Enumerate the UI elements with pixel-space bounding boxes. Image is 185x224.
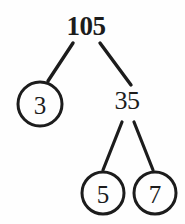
edge-root-to-left (48, 43, 73, 81)
edge-root-to-right (100, 43, 131, 85)
node-root-105: 105 (67, 13, 106, 40)
edge-right-to-seven (134, 122, 153, 170)
node-prime-7: 7 (149, 182, 162, 207)
node-composite-35: 35 (115, 88, 140, 114)
edge-right-to-five (103, 122, 122, 170)
node-prime-5: 5 (97, 182, 110, 207)
factor-tree-figure: 105 3 35 5 7 (0, 0, 185, 224)
node-prime-3: 3 (34, 93, 47, 118)
